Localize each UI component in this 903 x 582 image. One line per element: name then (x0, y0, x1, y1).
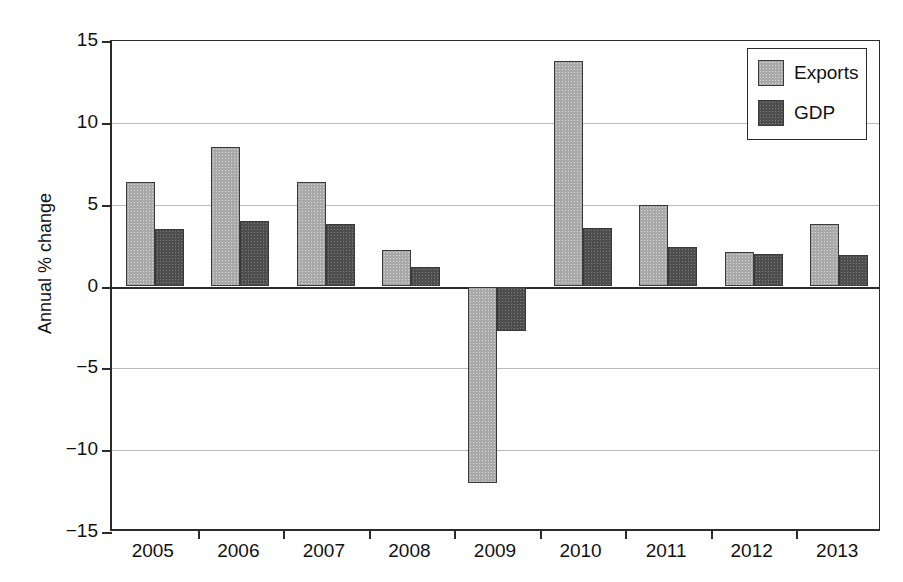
y-axis-tick (102, 205, 112, 207)
bar-exports-2008 (382, 250, 411, 286)
y-axis-tick-label: 10 (28, 111, 98, 133)
bar-exports-2010 (554, 61, 583, 287)
bar-gdp-2013 (839, 255, 868, 286)
legend-swatch-exports-icon (758, 60, 784, 86)
bar-gdp-2008 (411, 267, 440, 287)
y-axis-tick-label: −5 (28, 356, 98, 378)
x-axis-tick-label: 2011 (621, 540, 711, 562)
chart-legend: Exports GDP (747, 48, 867, 140)
y-axis-tick-label: −15 (28, 520, 98, 542)
x-axis-tick (625, 529, 627, 539)
legend-label-gdp: GDP (794, 102, 835, 124)
bar-exports-2013 (810, 224, 839, 286)
cropped-chart-title (138, 0, 218, 4)
x-axis-tick-label: 2010 (536, 540, 626, 562)
legend-label-exports: Exports (794, 62, 858, 84)
bar-exports-2006 (211, 147, 240, 286)
y-axis-tick (102, 368, 112, 370)
x-axis-tick (540, 529, 542, 539)
legend-item-exports[interactable]: Exports (758, 60, 858, 86)
bar-exports-2009 (468, 287, 497, 483)
x-axis-tick (711, 529, 713, 539)
y-axis-tick-label: 15 (28, 29, 98, 51)
x-axis-tick-label: 2008 (364, 540, 454, 562)
y-axis-tick-label: −10 (28, 438, 98, 460)
bar-exports-2007 (297, 182, 326, 287)
x-axis-tick (283, 529, 285, 539)
y-axis-tick (102, 41, 112, 43)
bar-gdp-2009 (497, 287, 526, 331)
x-axis-tick (796, 529, 798, 539)
legend-swatch-gdp-icon (758, 100, 784, 126)
y-axis-tick (102, 532, 112, 534)
x-axis-tick-label: 2013 (792, 540, 882, 562)
x-axis-tick (369, 529, 371, 539)
y-axis-tick-label: 0 (28, 275, 98, 297)
x-axis-tick-label: 2009 (450, 540, 540, 562)
y-axis-tick (102, 450, 112, 452)
x-axis-tick-label: 2005 (108, 540, 198, 562)
y-axis-tick (102, 287, 112, 289)
legend-item-gdp[interactable]: GDP (758, 100, 835, 126)
bar-chart: Annual % change 151050−5−10−15 200520062… (0, 0, 903, 582)
bar-gdp-2010 (583, 228, 612, 287)
x-axis-tick-label: 2012 (707, 540, 797, 562)
x-axis-tick-label: 2007 (279, 540, 369, 562)
bar-exports-2005 (126, 182, 155, 287)
bar-exports-2011 (639, 205, 668, 287)
bar-exports-2012 (725, 252, 754, 286)
bar-gdp-2005 (155, 229, 184, 286)
x-axis-tick (454, 529, 456, 539)
bar-gdp-2007 (326, 224, 355, 286)
y-axis-tick-label: 5 (28, 193, 98, 215)
x-axis-tick (198, 529, 200, 539)
x-axis-tick-label: 2006 (193, 540, 283, 562)
bar-gdp-2006 (240, 221, 269, 286)
bar-gdp-2011 (668, 247, 697, 286)
bar-gdp-2012 (754, 254, 783, 287)
y-axis-tick (102, 123, 112, 125)
